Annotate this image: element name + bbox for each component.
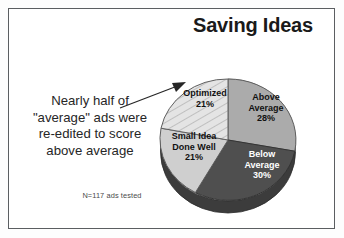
slide-canvas: Saving Ideas Optimize bbox=[0, 0, 344, 238]
chart-footnote: N=117 ads tested bbox=[52, 191, 172, 200]
annotation-arrow-icon bbox=[118, 78, 194, 114]
annotation-line-4: above average bbox=[14, 143, 166, 160]
pie-slice-above-average[interactable] bbox=[228, 79, 296, 151]
page-title: Saving Ideas bbox=[178, 14, 328, 36]
annotation-line-3: re-edited to score bbox=[14, 126, 166, 143]
pie-chart bbox=[150, 50, 330, 215]
